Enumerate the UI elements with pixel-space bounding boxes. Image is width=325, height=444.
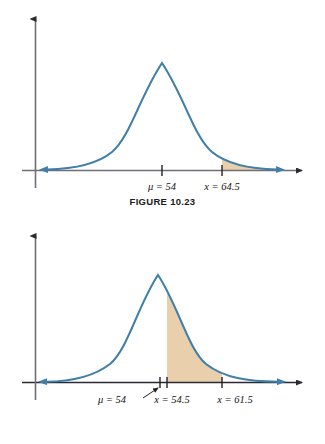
x-upper-label: x = 61.5 [216, 394, 252, 405]
x-label: x = 64.5 [203, 181, 239, 192]
normal-distribution-curve [46, 275, 278, 382]
normal-distribution-curve [47, 63, 277, 170]
shaded-region-right-tail [40, 63, 284, 171]
figure-10-23: μ = 54 x = 64.5 FIGURE 10.23 [0, 0, 325, 222]
normal-curve-chart-1: μ = 54 x = 64.5 [0, 0, 325, 222]
figure-caption: FIGURE 10.23 [0, 196, 325, 207]
x-lower-label: x = 54.5 [153, 394, 189, 405]
mu-label: μ = 54 [147, 181, 177, 192]
figure-10-24: μ = 54 x = 54.5 x = 61.5 FIGURE 10.24 [0, 222, 325, 444]
mu-label: μ = 54 [97, 394, 127, 405]
normal-curve-chart-2: μ = 54 x = 54.5 x = 61.5 [0, 222, 325, 444]
shaded-region-band [38, 275, 286, 383]
